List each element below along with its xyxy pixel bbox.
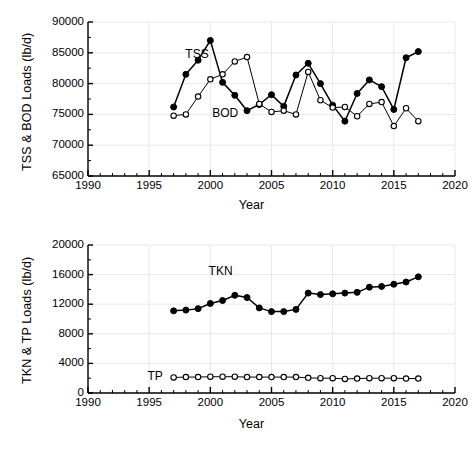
x-tick-label: 2010 (313, 396, 353, 408)
y-tick-label: 75000 (38, 107, 84, 119)
data-point (366, 284, 372, 290)
x-tick-label: 2010 (313, 179, 353, 191)
data-point (391, 281, 397, 287)
data-point (379, 283, 385, 289)
data-point (305, 60, 311, 66)
data-point (293, 374, 298, 379)
data-point (293, 306, 299, 312)
data-point (354, 114, 359, 119)
data-point (306, 375, 311, 380)
x-tick-label: 1995 (129, 179, 169, 191)
data-point (208, 374, 213, 379)
data-point (232, 59, 237, 64)
data-point (403, 376, 408, 381)
data-point (403, 279, 409, 285)
data-point (232, 374, 237, 379)
data-point (367, 101, 372, 106)
data-point (403, 55, 409, 61)
data-point (306, 69, 311, 74)
y-tick-label: 70000 (38, 138, 84, 150)
x-tick-label: 1995 (129, 396, 169, 408)
data-point (257, 374, 262, 379)
data-point (269, 92, 275, 98)
data-point (342, 104, 347, 109)
data-point (195, 374, 200, 379)
data-point (416, 376, 421, 381)
x-tick-label: 1990 (68, 396, 108, 408)
data-point (183, 374, 188, 379)
data-point (269, 309, 275, 315)
data-point (354, 376, 359, 381)
data-point (415, 49, 421, 55)
data-point (244, 295, 250, 301)
data-point (171, 104, 177, 110)
y-tick-label: 85000 (38, 46, 84, 58)
y-tick-label: 80000 (38, 77, 84, 89)
x-tick-label: 2015 (374, 396, 414, 408)
data-point (207, 37, 213, 43)
data-point (171, 113, 176, 118)
data-point (269, 374, 274, 379)
x-tick-label: 2020 (435, 179, 473, 191)
data-point (403, 106, 408, 111)
data-point (391, 123, 396, 128)
data-point (330, 376, 335, 381)
data-point (232, 292, 238, 298)
x-ticks (88, 387, 455, 393)
data-point (195, 306, 201, 312)
data-point (281, 374, 286, 379)
data-point (379, 84, 385, 90)
data-point (317, 292, 323, 298)
data-point (391, 106, 397, 112)
gridlines (88, 22, 455, 176)
data-point (391, 376, 396, 381)
y-ticks (88, 245, 93, 393)
data-point (269, 109, 274, 114)
data-point (171, 308, 177, 314)
data-point (244, 108, 250, 114)
data-point (208, 77, 213, 82)
data-point (318, 376, 323, 381)
data-point (281, 309, 287, 315)
data-point (330, 291, 336, 297)
data-point (354, 90, 360, 96)
data-point (244, 54, 249, 59)
data-point (207, 300, 213, 306)
data-point (183, 307, 189, 313)
data-point (367, 376, 372, 381)
gridlines (88, 245, 455, 393)
series-label-tss: TSS (185, 47, 208, 61)
data-point (244, 374, 249, 379)
data-point (256, 305, 262, 311)
y-tick-label: 90000 (38, 15, 84, 27)
x-tick-label: 1990 (68, 179, 108, 191)
y-tick-label: 4000 (38, 356, 84, 368)
x-axis-label-top: Year (0, 198, 435, 212)
x-tick-label: 2020 (435, 396, 473, 408)
data-point (342, 376, 347, 381)
data-point (366, 77, 372, 83)
data-point (318, 98, 323, 103)
y-tick-label: 20000 (38, 238, 84, 250)
data-point (293, 72, 299, 78)
series-label-tp: TP (147, 369, 162, 383)
data-point (220, 374, 225, 379)
data-point (232, 92, 238, 98)
data-point (415, 274, 421, 280)
series-tkn (171, 274, 422, 315)
series-label-tkn: TKN (209, 264, 233, 278)
data-point (305, 290, 311, 296)
data-point (354, 289, 360, 295)
data-point (342, 290, 348, 296)
x-tick-label: 2000 (190, 396, 230, 408)
series-tp (171, 374, 421, 382)
data-point (220, 298, 226, 304)
data-point (342, 118, 348, 124)
chart-panel-tss-bod: TSS & BOD Loads (lb/d) Year TSSBOD650007… (0, 0, 468, 225)
data-point (171, 375, 176, 380)
y-ticks (88, 22, 93, 176)
data-point (379, 99, 384, 104)
data-point (195, 94, 200, 99)
data-point (416, 118, 421, 123)
